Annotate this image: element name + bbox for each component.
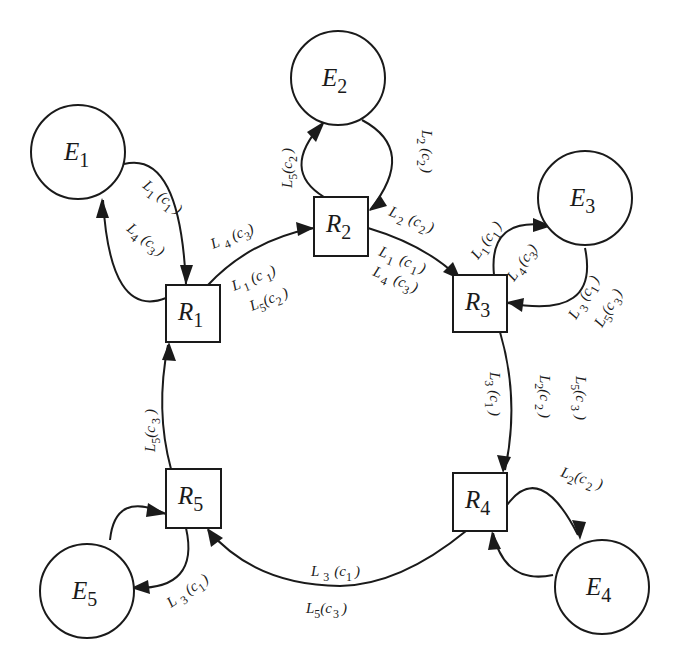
node-r1: R1 — [166, 285, 220, 342]
node-r4: R4 — [453, 473, 507, 531]
node-e2: E2 — [291, 31, 385, 125]
edge-label-r3-e3: L1(c1) — [467, 218, 509, 265]
svg-text:L5(c3): L5(c3) — [142, 409, 163, 453]
edge-r1-e1 — [103, 200, 166, 301]
svg-text:L4(c3): L4(c3) — [120, 219, 168, 263]
arrowhead-icon — [180, 265, 193, 285]
arrowhead-icon — [296, 222, 314, 236]
svg-text:L2(c2): L2(c2) — [557, 463, 605, 497]
edge-label-r5-e5: L3(c1) — [163, 570, 214, 615]
arrowhead-icon — [162, 342, 176, 361]
arrowhead-icon — [96, 198, 109, 218]
node-e3: E3 — [538, 151, 632, 245]
svg-text:L2(c2): L2(c2) — [532, 374, 553, 418]
edge-label-r3-r4-mid: L2(c2) — [532, 374, 553, 418]
node-e5: E5 — [40, 544, 134, 638]
svg-text:L3(c1): L3(c1) — [310, 563, 360, 584]
node-r2: R2 — [314, 197, 368, 256]
edge-r4-e4 — [507, 488, 578, 535]
arrowhead-icon — [507, 298, 524, 312]
svg-text:L3(c1): L3(c1) — [482, 371, 503, 416]
node-r5: R5 — [166, 469, 221, 528]
svg-text:L5(c3): L5(c3) — [305, 600, 347, 621]
svg-text:L4(c3): L4(c3) — [503, 241, 544, 287]
edge-e4-r4 — [493, 533, 553, 577]
edge-r5-r1 — [162, 345, 171, 469]
edge-r5-e5 — [133, 528, 188, 588]
edge-label-e2-r2: L2(c2) — [414, 129, 435, 173]
edge-label-r1-e1: L4(c3) — [120, 219, 168, 263]
edge-label-r4-r5-bot: L5(c3) — [305, 600, 347, 621]
node-r3: R3 — [453, 275, 507, 332]
svg-text:L3(c1): L3(c1) — [163, 570, 214, 615]
edge-r3-e3 — [493, 224, 552, 275]
svg-text:L1(c1): L1(c1) — [467, 218, 509, 265]
arrowhead-icon — [572, 520, 586, 540]
edge-label-r2-e2: L5(c2) — [279, 148, 300, 189]
arrowhead-icon — [488, 531, 501, 550]
edge-label-r5-r1: L5(c3) — [142, 409, 163, 453]
edge-label-r3-r4-left: L3(c1) — [482, 371, 503, 416]
svg-text:L2(c2): L2(c2) — [414, 129, 435, 173]
edge-label-r2-r3-top: L2(c2) — [384, 203, 436, 240]
svg-text:L5(c2): L5(c2) — [246, 284, 292, 319]
svg-text:L5(c2): L5(c2) — [279, 148, 300, 189]
node-e1: E1 — [31, 105, 125, 199]
edge-label-r4-r5-top: L3(c1) — [310, 563, 360, 584]
edge-label-r4-e4: L2(c2) — [557, 463, 605, 497]
svg-text:L2(c2): L2(c2) — [384, 203, 436, 240]
edge-label-r3-r4-right: L5(c3) — [568, 375, 589, 420]
svg-text:L5(c3): L5(c3) — [568, 375, 589, 420]
node-e4: E4 — [555, 540, 649, 634]
edge-label-e3-r3-inner: L4(c3) — [503, 241, 544, 287]
edge-label-r1-r2-bot: L5(c2) — [246, 284, 292, 319]
arrowhead-icon — [146, 503, 166, 517]
arrowhead-icon — [497, 455, 511, 473]
network-diagram: E1 E2 E3 E4 E5 R1 R2 R3 R4 R5 L1(c1) — [0, 0, 675, 652]
